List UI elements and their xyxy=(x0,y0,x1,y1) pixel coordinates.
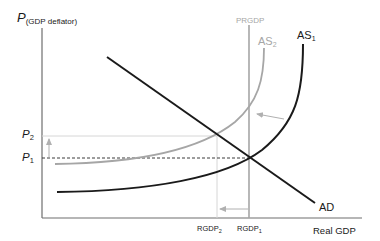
as2-label: AS2 xyxy=(258,35,277,48)
as2-curve xyxy=(55,48,264,164)
rgdp2-label: RGDP2 xyxy=(197,224,222,234)
p1-label: P1 xyxy=(22,151,34,165)
as1-label: AS1 xyxy=(297,29,316,42)
ad-as-chart: P(GDP deflator) Real GDP PRGDP AS2 AS1 A… xyxy=(0,0,380,241)
chart-svg: P(GDP deflator) Real GDP PRGDP AS2 AS1 A… xyxy=(0,0,380,241)
ad-label: AD xyxy=(319,201,334,213)
rgdp1-label: RGDP1 xyxy=(237,224,262,234)
x-axis-label: Real GDP xyxy=(313,225,356,236)
p2-label: P2 xyxy=(22,128,34,142)
y-axis-label: P(GDP deflator) xyxy=(17,10,77,26)
as-shift-arrow xyxy=(257,114,284,119)
prgdp-label: PRGDP xyxy=(236,16,264,25)
ad-line xyxy=(107,57,315,203)
